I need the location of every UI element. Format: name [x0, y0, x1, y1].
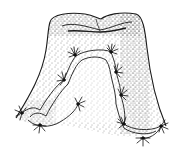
tuft-icon: [136, 137, 150, 146]
tuft-icon: [33, 124, 46, 133]
specimen-illustration: [0, 0, 177, 167]
illustration-svg: [0, 0, 177, 167]
